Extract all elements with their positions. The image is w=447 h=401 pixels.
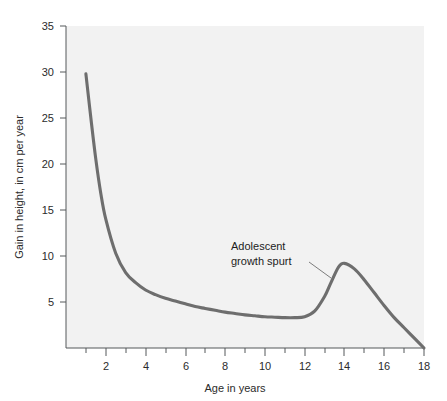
y-tick-label: 25 — [42, 112, 54, 124]
y-tick-label: 10 — [42, 250, 54, 262]
y-tick-label: 30 — [42, 66, 54, 78]
x-tick-label: 12 — [299, 360, 311, 372]
x-tick-label: 8 — [222, 360, 228, 372]
x-tick-label: 14 — [338, 360, 350, 372]
x-axis-title: Age in years — [204, 382, 266, 394]
y-tick-label: 5 — [48, 296, 54, 308]
y-tick-label: 35 — [42, 20, 54, 32]
plot-area-background — [66, 26, 424, 348]
y-tick-label: 20 — [42, 158, 54, 170]
x-tick-label: 16 — [378, 360, 390, 372]
annotation-line-1: Adolescent — [231, 240, 285, 252]
x-tick-label: 18 — [418, 360, 430, 372]
x-tick-label: 10 — [259, 360, 271, 372]
x-tick-label: 2 — [103, 360, 109, 372]
x-tick-label: 4 — [143, 360, 149, 372]
y-tick-label: 15 — [42, 204, 54, 216]
annotation-line-2: growth spurt — [231, 255, 292, 267]
y-axis-title: Gain in height, in cm per year — [13, 115, 25, 259]
chart-svg: 35 30 25 20 15 10 5 Gain in height, in c… — [0, 0, 447, 401]
growth-velocity-chart: 35 30 25 20 15 10 5 Gain in height, in c… — [0, 0, 447, 401]
x-tick-label: 6 — [183, 360, 189, 372]
